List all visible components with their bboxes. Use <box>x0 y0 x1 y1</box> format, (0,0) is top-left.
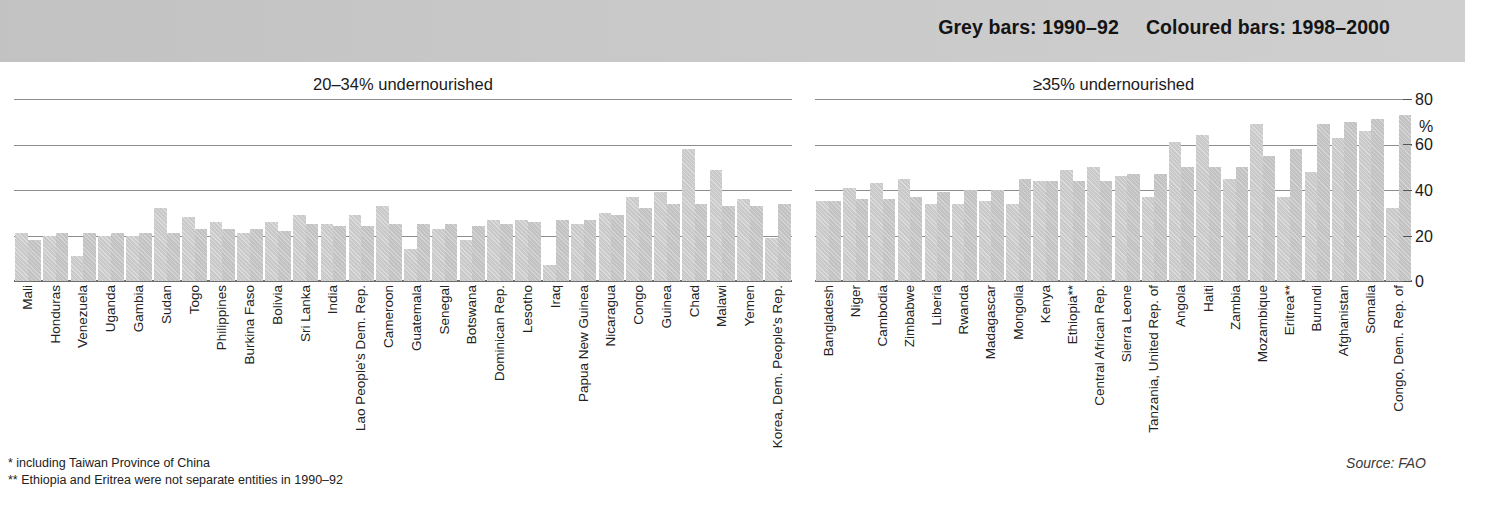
x-axis-label: Zambia <box>1222 285 1249 465</box>
bar-1990-92 <box>626 197 639 281</box>
x-axis-label: Papua New Guinea <box>570 285 598 465</box>
bar-1998-2000 <box>278 231 291 281</box>
bar-1998-2000 <box>750 206 763 281</box>
bar-1990-92 <box>15 233 28 281</box>
bar-group <box>681 99 709 281</box>
x-axis-label-text: Togo <box>188 285 202 314</box>
x-axis-label: Botswana <box>459 285 487 465</box>
bar-1998-2000 <box>500 224 513 281</box>
bar-group <box>1059 99 1086 281</box>
x-axis-label-text: Niger <box>849 285 863 317</box>
bar-group <box>1249 99 1276 281</box>
bar-group <box>320 99 348 281</box>
bar-1998-2000 <box>722 206 735 281</box>
panel-left-title: 20–34% undernourished <box>14 75 792 94</box>
x-axis-label-text: Chad <box>688 285 702 317</box>
x-axis-label-text: Rwanda <box>958 285 972 335</box>
bar-1998-2000 <box>1290 149 1302 281</box>
bar-1990-92 <box>1006 204 1018 281</box>
x-axis-label-text: Eritrea** <box>1283 285 1297 335</box>
bar-1990-92 <box>1223 179 1235 281</box>
x-axis-label-text: Burundi <box>1310 285 1324 332</box>
bar-1998-2000 <box>195 229 208 281</box>
bar-1998-2000 <box>910 197 922 281</box>
bar-1998-2000 <box>472 226 485 281</box>
bar-group <box>1168 99 1195 281</box>
bar-1990-92 <box>737 199 750 281</box>
bar-group <box>1222 99 1249 281</box>
bar-group <box>1358 99 1385 281</box>
bar-group <box>236 99 264 281</box>
bar-1990-92 <box>432 229 445 281</box>
bar-group <box>815 99 842 281</box>
bar-1998-2000 <box>1127 174 1139 281</box>
x-axis-label-text: Philippines <box>216 285 230 350</box>
bar-1998-2000 <box>1344 122 1356 281</box>
x-axis-label: Kenya <box>1032 285 1059 465</box>
x-axis-label: Niger <box>842 285 869 465</box>
x-axis-label-text: Zambia <box>1229 285 1243 330</box>
bar-1998-2000 <box>361 226 374 281</box>
bar-1990-92 <box>925 204 937 281</box>
bar-1990-92 <box>843 188 855 281</box>
panel-right: ≥35% undernourished BangladeshNigerCambo… <box>815 0 1412 512</box>
bar-1998-2000 <box>1263 156 1275 281</box>
x-axis-label: Bolivia <box>264 285 292 465</box>
bar-1990-92 <box>349 215 362 281</box>
x-axis-label-text: Haiti <box>1202 285 1216 312</box>
x-axis-label-text: Central African Rep. <box>1093 285 1107 406</box>
bar-1998-2000 <box>937 192 949 281</box>
x-axis-label-text: India <box>327 285 341 314</box>
bar-group <box>42 99 70 281</box>
x-axis-label-text: Venezuela <box>77 285 91 348</box>
bar-group <box>264 99 292 281</box>
source-note: Source: FAO <box>1346 455 1426 471</box>
bar-group <box>951 99 978 281</box>
bar-1998-2000 <box>1019 179 1031 281</box>
x-axis-label-text: Kenya <box>1039 285 1053 323</box>
x-axis-label: Somalia <box>1358 285 1385 465</box>
bar-group <box>514 99 542 281</box>
bar-group <box>431 99 459 281</box>
bar-group <box>181 99 209 281</box>
x-axis-label: Liberia <box>924 285 951 465</box>
bar-group <box>1086 99 1113 281</box>
x-axis-label: Uganda <box>97 285 125 465</box>
bar-1990-92 <box>515 220 528 281</box>
x-axis-label: Nicaragua <box>597 285 625 465</box>
bar-group <box>896 99 923 281</box>
chart-page: Grey bars: 1990–92 Coloured bars: 1998–2… <box>0 0 1502 512</box>
bar-group <box>1276 99 1303 281</box>
x-axis-label: Togo <box>181 285 209 465</box>
x-axis-label: Sierra Leone <box>1114 285 1141 465</box>
bar-1998-2000 <box>1317 124 1329 281</box>
bar-1990-92 <box>979 201 991 281</box>
bar-1990-92 <box>1142 197 1154 281</box>
bar-1998-2000 <box>611 215 624 281</box>
bar-1990-92 <box>710 170 723 281</box>
bar-1990-92 <box>460 240 473 281</box>
x-axis-label-text: Gambia <box>132 285 146 332</box>
bar-1998-2000 <box>1073 181 1085 281</box>
bar-1990-92 <box>237 233 250 281</box>
bar-1990-92 <box>1087 167 1099 281</box>
x-axis-label: Congo, Dem. Rep. of <box>1385 285 1412 465</box>
x-axis-label-text: Bolivia <box>271 285 285 325</box>
bar-1990-92 <box>265 222 278 281</box>
bar-group <box>764 99 792 281</box>
x-axis-label: Rwanda <box>951 285 978 465</box>
bar-1998-2000 <box>1100 181 1112 281</box>
bar-1990-92 <box>1033 181 1045 281</box>
x-axis-label: Mongolia <box>1005 285 1032 465</box>
y-tick-0: 0 <box>1415 274 1424 290</box>
x-axis-label-text: Angola <box>1175 285 1189 327</box>
x-axis-label-text: Guinea <box>660 285 674 329</box>
x-axis-label: Malawi <box>709 285 737 465</box>
x-axis-label-text: Dominican Rep. <box>493 285 507 381</box>
bar-group <box>542 99 570 281</box>
bar-group <box>125 99 153 281</box>
footnotes: * including Taiwan Province of China ** … <box>8 455 343 489</box>
bar-group <box>14 99 42 281</box>
x-axis-label: Angola <box>1168 285 1195 465</box>
x-axis-label: Guatemala <box>403 285 431 465</box>
